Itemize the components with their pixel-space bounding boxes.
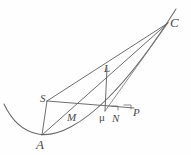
point-label-M: M — [67, 112, 76, 123]
point-label-A: A — [36, 138, 44, 151]
point-label-C: C — [170, 16, 179, 29]
segment-A-S — [42, 101, 47, 135]
point-label-P: P — [133, 107, 140, 118]
segment-mu-L — [105, 68, 107, 111]
parabola-curve — [4, 9, 176, 135]
figure-canvas — [0, 0, 191, 155]
segment-mu-C — [105, 23, 168, 111]
segment-A-C — [42, 23, 168, 135]
point-label-mu: μ — [99, 112, 105, 123]
geometry-figure: A S M μ N P L C — [0, 0, 191, 155]
point-label-S: S — [40, 93, 46, 104]
point-label-N: N — [112, 113, 119, 124]
point-label-L: L — [104, 63, 110, 74]
segment-S-P — [47, 101, 134, 108]
